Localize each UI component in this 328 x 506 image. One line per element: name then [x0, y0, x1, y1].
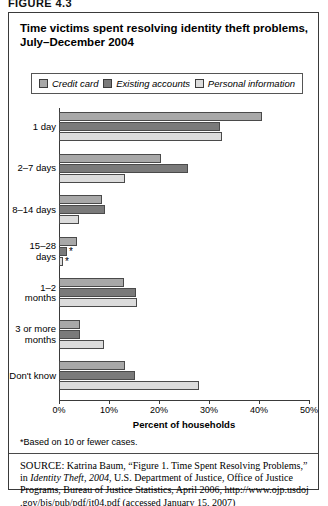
bar-stack: ** — [59, 237, 77, 267]
bar-stack — [59, 112, 262, 142]
category-label: 2–7 days — [9, 163, 56, 174]
category-label: 1–2 months — [9, 283, 56, 304]
legend-label-credit-card: Credit card — [52, 79, 98, 89]
source-divider — [9, 453, 318, 454]
category-label: 1 day — [9, 122, 56, 133]
bar-stack — [59, 195, 105, 225]
bar-footnote-asterisk: * — [69, 247, 73, 257]
x-axis-tick — [209, 400, 210, 404]
x-axis-tick-label: 20% — [150, 405, 168, 415]
figure-label: FIGURE 4.3 — [8, 0, 72, 9]
x-axis-tick-label: 10% — [100, 405, 118, 415]
legend-label-existing-accounts: Existing accounts — [116, 79, 190, 89]
bar-credit-card — [59, 154, 161, 163]
bar-personal-information — [59, 132, 222, 141]
chart-legend: Credit cardExisting accountsPersonal inf… — [31, 73, 303, 94]
legend-item-credit-card: Credit card — [39, 79, 98, 89]
source-title-italic: Identity Theft, 2004 — [30, 472, 109, 483]
category-label: 8–14 days — [9, 205, 56, 216]
x-axis-line — [59, 400, 309, 401]
legend-item-existing-accounts: Existing accounts — [103, 79, 190, 89]
legend-swatch-personal-information — [195, 79, 204, 88]
x-axis-tick — [309, 400, 310, 404]
source-label: SOURCE: — [20, 460, 64, 471]
bar-personal-information: * — [59, 257, 63, 266]
bar-personal-information — [59, 215, 79, 224]
chart-title: Time victims spent resolving identity th… — [20, 21, 310, 49]
bar-stack — [59, 320, 104, 350]
bar-personal-information — [59, 381, 199, 390]
legend-item-personal-information: Personal information — [195, 79, 295, 89]
legend-label-personal-information: Personal information — [208, 79, 295, 89]
bar-existing-accounts — [59, 288, 136, 297]
bar-credit-card — [59, 237, 77, 246]
x-axis-tick — [259, 400, 260, 404]
bar-personal-information — [59, 174, 125, 183]
figure-panel: Time victims spent resolving identity th… — [8, 12, 319, 490]
bar-personal-information — [59, 340, 104, 349]
x-axis-title: Percent of households — [59, 419, 309, 430]
bar-existing-accounts — [59, 371, 135, 380]
bar-existing-accounts: * — [59, 247, 67, 256]
bar-stack — [59, 154, 188, 184]
bar-existing-accounts — [59, 330, 80, 339]
category-label: 15–28 days — [9, 241, 56, 262]
legend-swatch-existing-accounts — [103, 79, 112, 88]
x-axis-tick — [109, 400, 110, 404]
bar-stack — [59, 361, 199, 391]
bar-credit-card — [59, 112, 262, 121]
x-axis-tick-label: 40% — [250, 405, 268, 415]
bar-existing-accounts — [59, 122, 220, 131]
bar-credit-card — [59, 320, 80, 329]
legend-swatch-credit-card — [39, 79, 48, 88]
footnote: *Based on 10 or fewer cases. — [20, 437, 310, 448]
bar-footnote-asterisk: * — [65, 257, 69, 267]
x-axis-tick-label: 30% — [200, 405, 218, 415]
bar-existing-accounts — [59, 205, 105, 214]
category-label: Don't know — [9, 371, 56, 382]
bar-personal-information — [59, 298, 137, 307]
source-note: SOURCE: Katrina Baum, “Figure 1. Time Sp… — [20, 460, 311, 506]
bar-credit-card — [59, 195, 102, 204]
chart-plot-area: 1 day2–7 days8–14 days15–28 days**1–2 mo… — [9, 108, 318, 408]
x-axis-tick — [159, 400, 160, 404]
bar-stack — [59, 278, 137, 308]
bar-credit-card — [59, 361, 125, 370]
x-axis-tick-label: 50% — [300, 405, 318, 415]
bar-credit-card — [59, 278, 124, 287]
category-label: 3 or more months — [9, 324, 56, 345]
x-axis-tick-label: 0% — [52, 405, 65, 415]
bar-existing-accounts — [59, 164, 188, 173]
x-axis-tick — [59, 400, 60, 404]
